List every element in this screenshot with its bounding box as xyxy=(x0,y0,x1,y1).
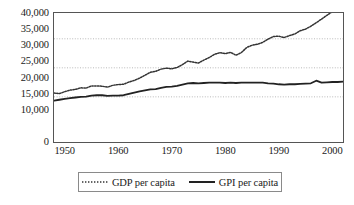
x-axis-tick-label: 2000 xyxy=(322,145,343,157)
chart-figure: 40,00035,00030,00025,00020,00015,00010,0… xyxy=(0,0,354,205)
dotted-line-swatch xyxy=(82,178,108,186)
x-axis: 195019601970198019902000 xyxy=(53,145,344,161)
series-line xyxy=(54,81,343,101)
x-axis-tick-label: 1990 xyxy=(268,145,289,157)
y-axis-tick-label: 0 xyxy=(0,137,49,147)
y-axis-tick-label: 30,000 xyxy=(0,40,49,50)
legend-entry: GDP per capita xyxy=(82,177,175,188)
gridlines xyxy=(54,39,343,97)
legend-entry: GPI per capita xyxy=(189,177,278,188)
plot-area xyxy=(53,12,344,143)
plot-svg xyxy=(54,13,343,142)
y-axis-tick-label: 35,000 xyxy=(0,24,49,34)
y-axis-tick-label: 10,000 xyxy=(0,105,49,115)
y-axis: 40,00035,00030,00025,00020,00015,00010,0… xyxy=(0,12,49,143)
x-axis-tick-label: 1950 xyxy=(54,145,75,157)
y-axis-tick-label: 20,000 xyxy=(0,73,49,83)
solid-line-swatch xyxy=(189,178,215,186)
series-lines xyxy=(54,13,343,101)
x-axis-tick-label: 1960 xyxy=(108,145,129,157)
y-axis-tick-label: 15,000 xyxy=(0,89,49,99)
y-axis-tick-label: 40,000 xyxy=(0,8,49,18)
x-axis-tick-label: 1970 xyxy=(161,145,182,157)
legend-label: GPI per capita xyxy=(219,177,278,188)
y-axis-tick-label: 25,000 xyxy=(0,56,49,66)
legend-label: GDP per capita xyxy=(112,177,175,188)
chart-legend: GDP per capitaGPI per capita xyxy=(78,172,282,192)
x-axis-tick-label: 1980 xyxy=(215,145,236,157)
series-line xyxy=(54,13,343,94)
